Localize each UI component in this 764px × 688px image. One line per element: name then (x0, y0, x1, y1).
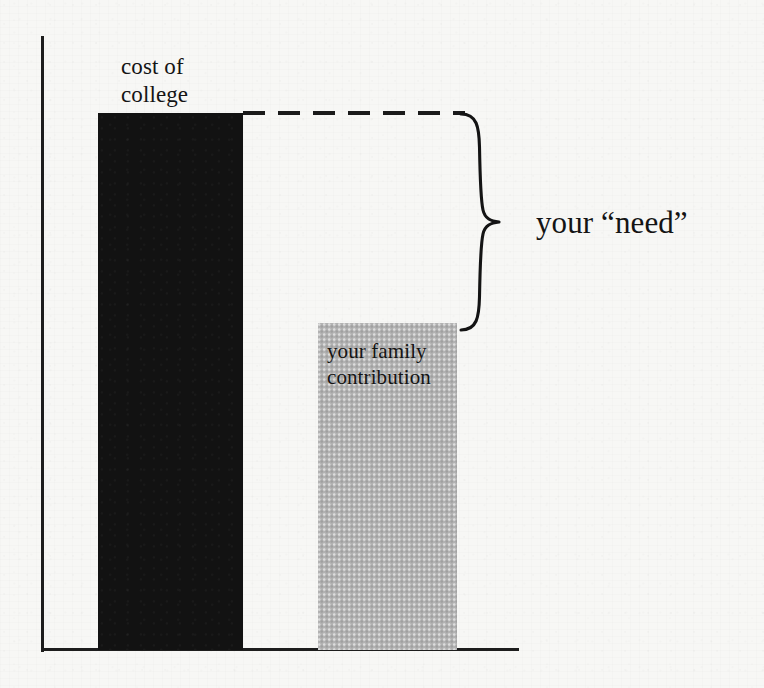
need-curly-brace-icon (450, 103, 530, 335)
bar-cost-of-college (98, 113, 243, 650)
label-your-need: your “need” (536, 204, 688, 242)
cost-reference-dashed-line (243, 111, 465, 115)
y-axis (41, 36, 44, 652)
label-cost-of-college: cost of college (121, 53, 188, 109)
label-your-family-contribution: your family contribution (327, 339, 431, 390)
chart-figure: cost of college your family contribution… (0, 0, 764, 688)
